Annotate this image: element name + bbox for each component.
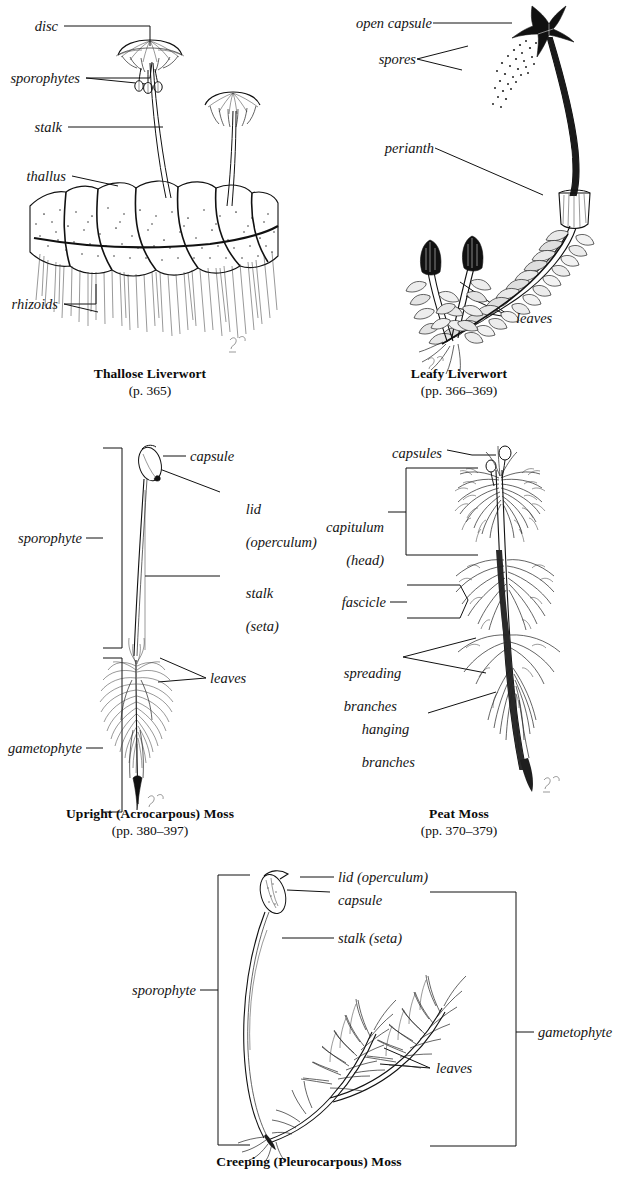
caption-name: Creeping (Pleurocarpous) Moss [0, 1154, 618, 1170]
label-thallus: thallus [0, 168, 66, 185]
label-spores: spores [300, 51, 416, 68]
label-fascicle: fascicle [300, 594, 386, 611]
label-gametophyte: gametophyte [0, 740, 82, 757]
label-rhizoids: rhizoids [0, 296, 58, 313]
illustration-page: disc sporophytes stalk thallus rhizoids … [0, 0, 618, 1187]
open-capsule [512, 6, 574, 57]
caption-pages: (p. 365) [0, 383, 300, 399]
seta-stalk [134, 479, 147, 656]
label-sporophyte: sporophyte [0, 530, 82, 547]
label-sporophytes: sporophytes [0, 70, 80, 87]
artist-signature [229, 337, 245, 352]
caption-upright-moss: Upright (Acrocarpous) Moss (pp. 380–397) [0, 806, 300, 839]
seta [244, 912, 269, 1138]
label-hanging-line2: branches [362, 754, 415, 770]
upright-branches [406, 236, 491, 341]
label-disc: disc [0, 18, 58, 35]
artist-signature-4 [543, 777, 559, 792]
figure-leafy-liverwort: open capsule spores perianth leaves Leaf… [300, 0, 618, 412]
caption-pages: (pp. 380–397) [0, 823, 300, 839]
label-capitulum: capitulum (head) [300, 502, 384, 585]
figure-upright-moss: sporophyte gametophyte capsule lid (oper… [0, 430, 300, 842]
rhizoids [36, 252, 277, 338]
label-spreading-line1: spreading [344, 665, 401, 681]
label-leaves: leaves [516, 310, 552, 327]
label-capsules: capsules [300, 445, 442, 462]
label-gametophyte: gametophyte [538, 1024, 612, 1041]
label-stalk-line1: stalk [246, 585, 273, 601]
figure-thallose-liverwort: disc sporophytes stalk thallus rhizoids … [0, 0, 300, 412]
capsule [256, 871, 290, 917]
label-leaves: leaves [210, 670, 246, 687]
spores [492, 40, 537, 108]
capsule [135, 445, 165, 483]
label-capsule: capsule [190, 448, 234, 465]
creeping-moss-drawing [0, 860, 618, 1160]
label-perianth: perianth [300, 140, 434, 157]
label-stalk-seta: stalk (seta) [338, 930, 402, 947]
gametophyte-shoot [100, 638, 173, 810]
caption-creeping-moss: Creeping (Pleurocarpous) Moss [0, 1154, 618, 1171]
capitulum-head [458, 446, 542, 538]
label-lid-operculum: lid (operculum) [338, 869, 428, 886]
caption-name: Upright (Acrocarpous) Moss [0, 806, 300, 822]
caption-thallose-liverwort: Thallose Liverwort (p. 365) [0, 366, 300, 399]
gametophyte-shoots [238, 975, 466, 1160]
label-leaves: leaves [436, 1060, 472, 1077]
caption-peat-moss: Peat Moss (pp. 370–379) [300, 806, 618, 839]
caption-name: Peat Moss [300, 806, 618, 822]
sporophyte-capsules [135, 68, 162, 93]
label-stalk: stalk [0, 119, 62, 136]
label-stalk-line2: (seta) [246, 618, 279, 634]
label-hanging-line1: hanging [362, 721, 410, 737]
caption-pages: (pp. 366–369) [300, 383, 618, 399]
label-capitulum-line1: capitulum [326, 519, 384, 535]
figure-peat-moss: capsules capitulum (head) fascicle sprea… [300, 430, 618, 842]
caption-pages: (pp. 370–379) [300, 823, 618, 839]
label-capitulum-line2: (head) [346, 552, 384, 568]
label-lid-line1: lid [246, 501, 261, 517]
label-hanging-branches: hanging branches [340, 704, 415, 787]
seta [547, 37, 579, 196]
thallose-liverwort-drawing [0, 0, 300, 380]
label-open-capsule: open capsule [300, 15, 432, 32]
figure-creeping-moss: lid (operculum) capsule stalk (seta) spo… [0, 860, 618, 1187]
label-stalk: stalk (seta) [224, 568, 279, 651]
caption-name: Leafy Liverwort [300, 366, 618, 382]
thallus-body [30, 181, 278, 276]
caption-leafy-liverwort: Leafy Liverwort (pp. 366–369) [300, 366, 618, 399]
caption-name: Thallose Liverwort [0, 366, 300, 382]
label-capsule: capsule [338, 892, 382, 909]
stalks [150, 63, 236, 206]
label-sporophyte: sporophyte [96, 982, 196, 999]
